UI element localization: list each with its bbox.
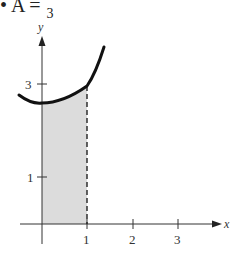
x-tick-label-2: 2 — [129, 232, 136, 247]
y-tick-label-3: 3 — [25, 77, 32, 92]
function-curve — [19, 47, 104, 103]
x-tick-label-1: 1 — [83, 232, 90, 247]
x-tick-label-3: 3 — [174, 232, 181, 247]
area-plot: x y 1 2 3 1 3 — [0, 0, 231, 261]
x-axis-label: x — [223, 217, 230, 231]
y-axis-label: y — [37, 20, 44, 34]
x-axis-arrow-icon — [212, 221, 222, 228]
y-tick-label-1: 1 — [27, 170, 34, 185]
shaded-area — [42, 86, 87, 224]
y-axis-arrow-icon — [39, 36, 46, 46]
